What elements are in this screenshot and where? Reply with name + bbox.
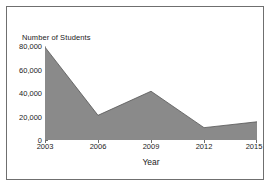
- area-fill: [45, 47, 257, 140]
- y-tick-label: 40,000: [2, 89, 42, 98]
- y-axis-tick-labels: 0 20,000 40,000 60,000 80,000: [0, 46, 42, 140]
- x-tick-label: 2012: [196, 142, 213, 151]
- area-series: [45, 46, 257, 140]
- x-tick-label: 2009: [143, 142, 160, 151]
- x-tick-label: 2015: [246, 142, 263, 151]
- x-axis-title: Year: [45, 157, 257, 167]
- x-axis-tick-labels: 2003 2006 2009 2012 2015: [45, 142, 257, 154]
- x-tick-label: 2006: [90, 142, 107, 151]
- chart-figure: Number of Students 0 20,000 40,000 60,00…: [0, 0, 271, 187]
- y-tick-label: 80,000: [2, 42, 42, 51]
- y-tick-label: 60,000: [2, 65, 42, 74]
- x-tick-label: 2003: [37, 142, 54, 151]
- plot-area: [45, 46, 257, 140]
- y-tick-label: 20,000: [2, 112, 42, 121]
